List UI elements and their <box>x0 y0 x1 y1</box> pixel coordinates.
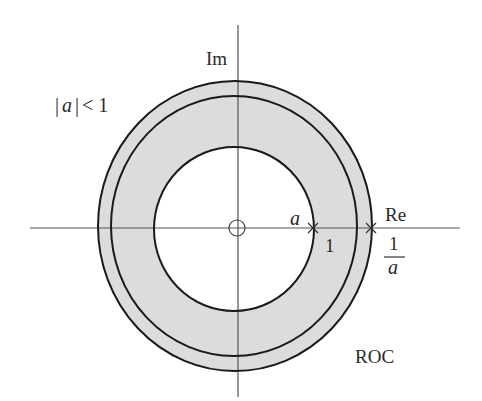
imaginary-axis-label: Im <box>206 48 227 69</box>
condition-value: 1 <box>98 94 108 116</box>
pole-a-label: a <box>290 207 300 229</box>
roc-shaded-region <box>98 81 372 371</box>
unit-circle-label: 1 <box>325 235 335 256</box>
condition-bar-right: | <box>75 94 79 117</box>
condition-bar-left: | <box>55 94 59 117</box>
condition-op: < <box>82 94 93 116</box>
roc-label: ROC <box>355 346 394 367</box>
inv-a-denominator: a <box>388 256 398 278</box>
inv-a-numerator: 1 <box>389 233 399 254</box>
condition-var: a <box>62 94 72 116</box>
condition-label: |a|<1 <box>55 94 108 117</box>
roc-diagram: Im Re |a|<1 a 1 1 a ROC <box>0 0 482 401</box>
real-axis-label: Re <box>385 204 406 225</box>
